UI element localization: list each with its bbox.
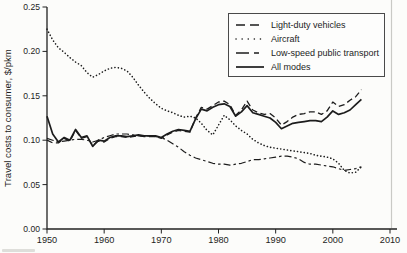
legend-item-low-speed-public-transport: Low-speed public transport bbox=[235, 46, 380, 60]
x-tick-label-1950: 1950 bbox=[37, 235, 57, 245]
series-line-light-duty-vehicles bbox=[47, 90, 361, 146]
cropped-figure-caption-remnant bbox=[2, 249, 35, 252]
series-line-low-speed-public-transport bbox=[47, 134, 361, 170]
x-ticks: 1950196019701980199020002010 bbox=[37, 229, 400, 245]
legend-line-sample bbox=[235, 48, 265, 58]
y-tick-label-0.25: 0.25 bbox=[23, 2, 40, 12]
legend-label: All modes bbox=[271, 62, 311, 72]
y-tick-label-0.00: 0.00 bbox=[23, 224, 40, 234]
legend-line-sample bbox=[235, 62, 265, 72]
x-tick-label-1960: 1960 bbox=[94, 235, 114, 245]
y-tick-label-0.15: 0.15 bbox=[23, 91, 40, 101]
legend-item-aircraft: Aircraft bbox=[235, 32, 380, 46]
x-tick-label-1990: 1990 bbox=[265, 235, 285, 245]
legend-item-all-modes: All modes bbox=[235, 60, 380, 74]
legend-label: Aircraft bbox=[271, 34, 300, 44]
legend: Light-duty vehiclesAircraftLow-speed pub… bbox=[228, 13, 385, 77]
legend-line-sample bbox=[235, 34, 265, 44]
y-tick-label-0.20: 0.20 bbox=[23, 46, 40, 56]
y-axis-title: Travel costs to consumer, $/pkm bbox=[2, 49, 13, 187]
x-tick-label-2000: 2000 bbox=[323, 235, 343, 245]
x-tick-label-1980: 1980 bbox=[208, 235, 228, 245]
legend-item-light-duty-vehicles: Light-duty vehicles bbox=[235, 18, 380, 32]
series-line-all-modes bbox=[47, 99, 361, 146]
y-tick-label-0.05: 0.05 bbox=[23, 180, 40, 190]
legend-label: Low-speed public transport bbox=[271, 48, 379, 58]
x-tick-label-2010: 2010 bbox=[380, 235, 400, 245]
y-ticks: 0.000.050.100.150.200.25 bbox=[23, 2, 47, 234]
figure-scan: 0.000.050.100.150.200.25 195019601970198… bbox=[0, 0, 407, 253]
x-tick-label-1970: 1970 bbox=[151, 235, 171, 245]
y-tick-label-0.10: 0.10 bbox=[23, 135, 40, 145]
legend-line-sample bbox=[235, 20, 265, 30]
legend-label: Light-duty vehicles bbox=[271, 20, 346, 30]
